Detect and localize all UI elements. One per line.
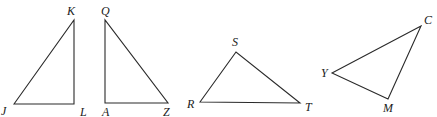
triangle-rst-shape (200, 52, 300, 103)
triangles-figure: J K L Q A Z R S T Y C M (0, 0, 437, 117)
vertex-label-j: J (1, 104, 7, 117)
vertex-label-l: L (79, 105, 87, 117)
triangle-qaz: Q A Z (101, 4, 170, 117)
triangle-jkl: J K L (1, 4, 87, 117)
vertex-label-m: M (382, 101, 394, 115)
vertex-label-y: Y (321, 66, 329, 80)
vertex-label-k: K (66, 4, 76, 18)
vertex-label-s: S (232, 35, 238, 49)
vertex-label-c: C (424, 13, 433, 27)
triangle-ycm: Y C M (321, 13, 433, 115)
triangle-ycm-shape (332, 26, 421, 99)
triangle-rst: R S T (186, 35, 313, 114)
triangle-qaz-shape (105, 20, 168, 103)
vertex-label-z: Z (163, 105, 170, 117)
vertex-label-t: T (305, 100, 313, 114)
triangle-jkl-shape (14, 20, 74, 104)
vertex-label-r: R (186, 97, 195, 111)
vertex-label-q: Q (101, 4, 110, 18)
vertex-label-a: A (101, 105, 110, 117)
